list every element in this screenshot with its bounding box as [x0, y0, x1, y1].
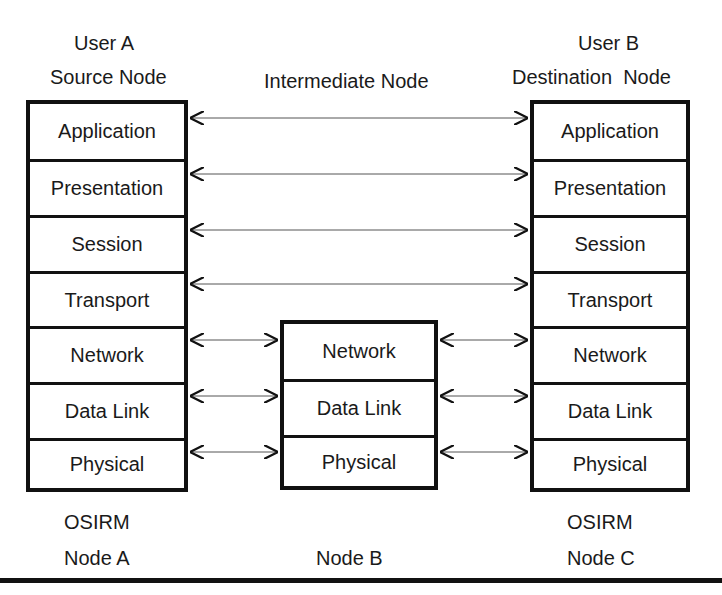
node-b-name-label: Node B [316, 547, 383, 570]
node-a-model-label: OSIRM [64, 511, 130, 534]
node-c-model-label: OSIRM [567, 511, 633, 534]
peer-arrows [0, 0, 722, 595]
node-a-name-label: Node A [64, 547, 130, 570]
node-c-name-label: Node C [567, 547, 635, 570]
bottom-rule [0, 578, 722, 583]
